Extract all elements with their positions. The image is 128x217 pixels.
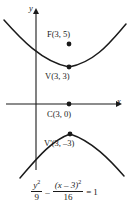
point-focus (67, 42, 72, 47)
equation-equals-sign: = (86, 187, 91, 197)
x-axis-label: x (117, 97, 121, 106)
y-axis-label: y (29, 4, 33, 13)
equation-term-2-expression: (x – 3) (55, 180, 79, 190)
equation-term-1-denominator: 9 (31, 191, 42, 202)
focus-point-label: F(3, 5) (47, 30, 70, 39)
equation-term-1-numerator: y2 (31, 181, 42, 191)
upper-vertex-label: V(3, 3) (45, 72, 70, 81)
equation-right-side: 1 (93, 187, 98, 197)
y-axis (33, 8, 39, 170)
lower-vertex-label: V'(3, –3) (44, 139, 74, 148)
point-vertex-upper (67, 65, 72, 70)
equation-term-1-exponent: 2 (37, 179, 40, 185)
hyperbola-plot (0, 0, 128, 180)
equation-term-1: y2 9 (31, 181, 42, 203)
equation-term-2-numerator: (x – 3)2 (53, 181, 84, 191)
point-vertex-lower (68, 132, 73, 137)
point-center (67, 102, 72, 107)
x-axis (6, 101, 122, 107)
equation-term-2-denominator: 16 (53, 191, 84, 202)
equation-term-2-exponent: 2 (78, 179, 81, 185)
hyperbola-equation: y2 9 – (x – 3)2 16 = 1 (0, 181, 128, 203)
hyperbola-figure: y x F(3, 5) V(3, 3) C(3, 0) V'(3, –3) y2… (0, 0, 128, 217)
equation-term-2: (x – 3)2 16 (53, 181, 84, 203)
equation-operator: – (45, 187, 50, 197)
center-point-label: C(3, 0) (47, 110, 71, 119)
upper-branch-curve (4, 20, 126, 67)
